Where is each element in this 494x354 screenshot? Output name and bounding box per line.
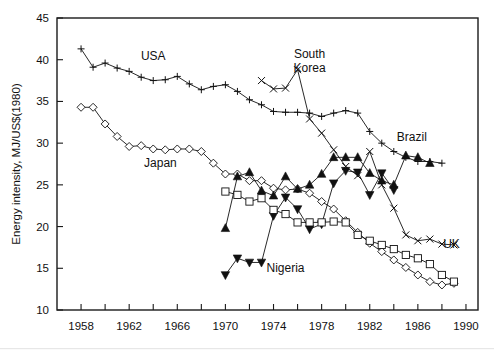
series-label-japan: Japan: [144, 156, 177, 170]
data-point: [221, 272, 229, 280]
y-tick-label: 15: [36, 262, 49, 274]
x-tick-label: 1962: [116, 320, 142, 332]
data-point: [78, 45, 85, 52]
data-point: [402, 251, 409, 258]
y-tick-label: 30: [36, 137, 49, 149]
series-uk: UK: [222, 188, 460, 285]
series-label-uk: UK: [443, 237, 460, 251]
data-point: [222, 81, 229, 88]
data-point: [210, 83, 217, 90]
data-point: [426, 278, 434, 286]
y-tick-label: 40: [36, 54, 49, 66]
series-label-line: Korea: [294, 61, 326, 75]
data-point: [294, 219, 301, 226]
x-tick-label: 1970: [213, 320, 239, 332]
data-point: [294, 109, 301, 116]
data-point: [90, 64, 97, 71]
data-point: [390, 245, 397, 252]
data-point: [342, 107, 349, 114]
data-point: [269, 191, 277, 199]
series-south-korea: SouthKorea: [258, 47, 457, 248]
data-point: [173, 145, 181, 153]
data-point: [318, 198, 326, 206]
data-point: [126, 68, 133, 75]
series-label-nigeria: Nigeria: [267, 261, 305, 275]
series-line: [225, 192, 454, 282]
data-point: [245, 168, 253, 176]
y-tick-label: 20: [36, 221, 49, 233]
data-point: [114, 65, 121, 72]
data-point: [366, 237, 373, 244]
data-point: [329, 180, 337, 188]
data-point: [246, 198, 253, 205]
data-point: [293, 206, 301, 214]
data-point: [234, 88, 241, 95]
data-point: [353, 153, 361, 161]
data-point: [245, 259, 253, 267]
data-point: [438, 271, 445, 278]
data-point: [102, 60, 109, 67]
data-point: [450, 278, 457, 285]
data-point: [390, 256, 398, 264]
data-point: [161, 146, 169, 154]
data-point: [390, 148, 397, 155]
scan-artifact: [0, 348, 494, 349]
y-tick-label: 35: [36, 95, 49, 107]
data-point: [402, 151, 410, 159]
data-point: [341, 153, 349, 161]
data-point: [390, 187, 398, 195]
x-tick-label: 1986: [405, 320, 431, 332]
data-point: [245, 177, 253, 185]
data-point: [258, 77, 265, 84]
y-tick-label: 10: [36, 304, 49, 316]
data-point: [270, 206, 277, 213]
data-point: [318, 113, 325, 120]
data-point: [198, 86, 205, 93]
series-label-south-korea: SouthKorea: [294, 47, 326, 75]
chart-canvas: 1015202530354045195819621966197019741978…: [0, 0, 494, 354]
data-point: [354, 231, 361, 238]
data-point: [257, 177, 265, 185]
x-tick-label: 1990: [453, 320, 479, 332]
data-point: [150, 77, 157, 84]
data-point: [426, 261, 433, 268]
data-point: [149, 145, 157, 153]
data-point: [330, 218, 337, 225]
data-point: [281, 172, 289, 180]
series-line: [225, 156, 429, 229]
data-point: [390, 205, 397, 212]
series-label-usa: USA: [141, 49, 166, 63]
data-point: [305, 226, 313, 234]
energy-intensity-chart: 1015202530354045195819621966197019741978…: [0, 0, 494, 354]
data-point: [282, 186, 290, 194]
x-tick-label: 1966: [164, 320, 190, 332]
data-point: [366, 192, 374, 200]
data-point: [306, 219, 313, 226]
data-point: [282, 109, 289, 116]
data-point: [162, 76, 169, 83]
data-point: [378, 241, 385, 248]
data-point: [282, 210, 289, 217]
data-point: [137, 142, 145, 150]
data-point: [414, 255, 421, 262]
x-tick-label: 1974: [261, 320, 287, 332]
data-point: [354, 110, 361, 117]
series-label-line: South: [294, 47, 325, 61]
y-axis-title: Energy intensity, MJ/US$(1980): [10, 83, 22, 245]
data-point: [258, 101, 265, 108]
x-tick-label: 1982: [357, 320, 383, 332]
data-point: [185, 145, 193, 153]
y-tick-label: 25: [36, 179, 49, 191]
data-point: [438, 281, 446, 289]
x-tick-label: 1958: [68, 320, 94, 332]
data-point: [221, 224, 229, 232]
data-point: [306, 189, 314, 197]
data-point: [77, 103, 85, 111]
data-point: [234, 191, 241, 198]
data-point: [402, 231, 409, 238]
data-point: [222, 188, 229, 195]
data-point: [366, 148, 373, 155]
data-point: [438, 160, 445, 167]
data-point: [318, 130, 325, 137]
data-point: [258, 195, 265, 202]
